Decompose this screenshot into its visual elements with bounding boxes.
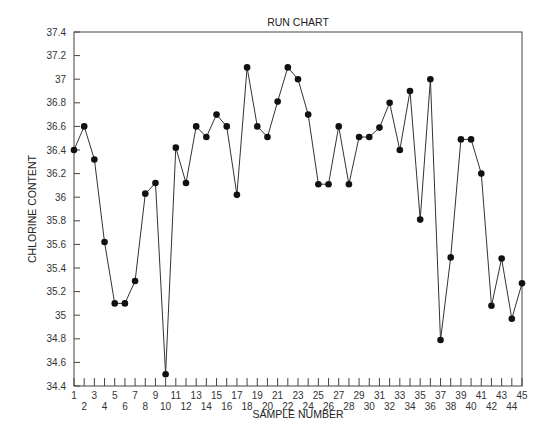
data-point — [488, 302, 495, 309]
x-axis: 1357911131517192123252729313335373941434… — [71, 378, 528, 412]
x-tick-label: 6 — [122, 401, 128, 412]
data-point — [91, 156, 98, 163]
data-markers — [71, 64, 526, 377]
data-point — [203, 134, 210, 141]
data-point — [244, 64, 251, 71]
run-chart: RUN CHART 34.434.634.83535.235.435.635.8… — [0, 0, 552, 446]
x-tick-label: 29 — [354, 390, 366, 401]
x-tick-label: 23 — [292, 390, 304, 401]
y-tick-label: 37.4 — [47, 27, 67, 38]
y-tick-label: 34.8 — [47, 333, 67, 344]
data-point — [193, 123, 200, 130]
data-point — [356, 134, 363, 141]
x-tick-label: 27 — [333, 390, 345, 401]
y-tick-label: 35 — [55, 310, 67, 321]
data-point — [264, 134, 271, 141]
data-point — [71, 147, 78, 154]
x-tick-label: 44 — [506, 401, 518, 412]
x-tick-label: 40 — [466, 401, 478, 412]
data-point — [162, 371, 169, 378]
data-point — [417, 216, 424, 223]
x-tick-label: 5 — [112, 390, 118, 401]
data-point — [335, 123, 342, 130]
data-point — [152, 180, 159, 187]
x-tick-label: 28 — [343, 401, 355, 412]
y-tick-label: 36.2 — [47, 168, 67, 179]
data-point — [111, 300, 118, 307]
data-point — [295, 76, 302, 83]
x-tick-label: 33 — [394, 390, 406, 401]
x-tick-label: 36 — [425, 401, 437, 412]
y-tick-label: 36.6 — [47, 121, 67, 132]
data-point — [101, 239, 108, 246]
x-tick-label: 34 — [404, 401, 416, 412]
data-point — [468, 136, 475, 143]
data-point — [81, 123, 88, 130]
y-tick-label: 37 — [55, 74, 67, 85]
y-tick-label: 36.8 — [47, 97, 67, 108]
y-tick-label: 36 — [55, 192, 67, 203]
x-tick-label: 4 — [102, 401, 108, 412]
y-axis-label: CHLORINE CONTENT — [26, 154, 38, 263]
x-tick-label: 32 — [384, 401, 396, 412]
y-tick-label: 37.2 — [47, 50, 67, 61]
x-tick-label: 42 — [486, 401, 498, 412]
y-tick-label: 36.4 — [47, 145, 67, 156]
data-line — [74, 67, 522, 374]
x-tick-label: 13 — [191, 390, 203, 401]
data-point — [427, 76, 434, 83]
y-tick-label: 35.2 — [47, 286, 67, 297]
data-point — [274, 98, 281, 105]
x-tick-label: 30 — [364, 401, 376, 412]
x-tick-label: 18 — [242, 401, 254, 412]
y-axis: 34.434.634.83535.235.435.635.83636.236.4… — [47, 27, 80, 392]
data-point — [437, 337, 444, 344]
data-point — [366, 134, 373, 141]
data-point — [478, 170, 485, 177]
x-tick-label: 43 — [496, 390, 508, 401]
x-tick-label: 3 — [92, 390, 98, 401]
x-tick-label: 19 — [252, 390, 264, 401]
x-tick-label: 21 — [272, 390, 284, 401]
x-tick-label: 39 — [455, 390, 467, 401]
y-tick-label: 35.8 — [47, 215, 67, 226]
data-point — [386, 100, 393, 107]
data-point — [285, 64, 292, 71]
data-point — [122, 300, 129, 307]
x-tick-label: 14 — [201, 401, 213, 412]
x-axis-label: SAMPLE NUMBER — [252, 408, 343, 420]
data-point — [447, 254, 454, 261]
y-tick-label: 34.4 — [47, 381, 67, 392]
x-tick-label: 31 — [374, 390, 386, 401]
data-point — [173, 144, 180, 151]
data-point — [397, 147, 404, 154]
x-tick-label: 2 — [81, 401, 87, 412]
data-point — [254, 123, 261, 130]
data-point — [142, 190, 149, 197]
x-tick-label: 37 — [435, 390, 447, 401]
x-tick-label: 7 — [132, 390, 138, 401]
data-point — [346, 181, 353, 188]
data-point — [519, 280, 526, 287]
data-point — [407, 88, 414, 95]
x-tick-label: 25 — [313, 390, 325, 401]
x-tick-label: 1 — [71, 390, 77, 401]
data-point — [132, 278, 139, 285]
x-tick-label: 12 — [180, 401, 192, 412]
x-tick-label: 9 — [153, 390, 159, 401]
x-tick-label: 15 — [211, 390, 223, 401]
data-point — [305, 111, 312, 118]
y-tick-label: 35.6 — [47, 239, 67, 250]
x-tick-label: 45 — [516, 390, 528, 401]
data-point — [325, 181, 332, 188]
x-tick-label: 8 — [142, 401, 148, 412]
x-tick-label: 16 — [221, 401, 233, 412]
chart-title: RUN CHART — [267, 16, 329, 28]
data-point — [234, 192, 241, 199]
x-tick-label: 17 — [231, 390, 243, 401]
data-point — [498, 255, 505, 262]
data-point — [213, 111, 220, 118]
data-point — [509, 315, 516, 322]
x-tick-label: 38 — [445, 401, 457, 412]
y-tick-label: 35.4 — [47, 263, 67, 274]
